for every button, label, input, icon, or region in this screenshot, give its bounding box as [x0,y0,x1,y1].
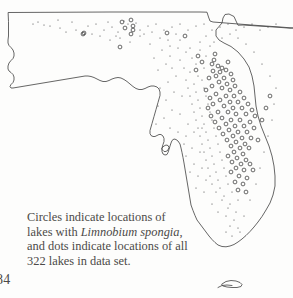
limnobium-lake-marker [209,114,213,118]
lake-dot-marker [221,37,222,38]
lake-dot-marker [95,23,96,24]
lake-dot-marker [201,79,202,80]
lake-dot-marker [219,26,220,27]
lake-dot-marker [175,75,176,76]
lake-dot-marker [135,22,136,23]
limnobium-lake-marker [248,120,252,124]
lake-dot-marker [215,171,216,172]
caption-line-3: and dots indicate locations of all [27,239,237,254]
lake-dot-marker [159,37,160,38]
limnobium-lake-marker [242,96,246,100]
species-name: Limnobium spongia [81,225,180,239]
lake-dot-marker [243,26,244,27]
lake-dot-marker [199,151,200,152]
lake-dot-marker [191,147,192,148]
lake-dot-marker [205,179,206,180]
lake-dot-marker [201,143,202,144]
limnobium-lake-marker [234,140,238,144]
limnobium-lake-marker [229,72,233,76]
limnobium-lake-marker [233,124,237,128]
lake-dot-marker [143,33,144,34]
lake-dot-marker [235,29,236,30]
limnobium-lake-marker [252,126,256,130]
lake-dot-marker [239,231,240,232]
limnobium-lake-marker [213,120,217,124]
limnobium-lake-marker [196,54,200,58]
limnobium-lake-marker [225,138,229,142]
lake-dot-marker [201,127,202,128]
lake-dot-marker [199,41,200,42]
limnobium-lake-marker [183,34,187,38]
limnobium-lake-marker [244,158,248,162]
lake-dot-marker [185,135,186,136]
lake-dot-marker [207,167,208,168]
lake-dot-marker [71,21,72,22]
limnobium-lake-marker [200,60,204,64]
limnobium-lake-marker [241,182,245,186]
lake-dot-marker [43,24,44,25]
limnobium-lake-marker [214,92,218,96]
lake-dot-marker [193,163,194,164]
lake-dot-marker [169,55,170,56]
lake-dot-marker [213,163,214,164]
lake-dot-marker [109,39,110,40]
lake-dot-marker [165,99,166,100]
caption-line-1: Circles indicate locations of [27,210,237,225]
limnobium-lake-marker [131,24,135,28]
limnobium-lake-marker [234,112,238,116]
limnobium-lake-marker [238,146,242,150]
lake-dot-marker [227,207,228,208]
lake-dot-marker [267,26,268,27]
lake-dot-marker [167,81,168,82]
lake-dot-marker [149,43,150,44]
limnobium-lake-marker [227,128,231,132]
limnobium-lake-marker [212,58,216,62]
lake-dot-marker [187,87,188,88]
limnobium-lake-marker [242,124,246,128]
limnobium-lake-marker [250,108,254,112]
lake-dot-marker [183,143,184,144]
lake-dot-marker [221,199,222,200]
limnobium-lake-marker [231,134,235,138]
lake-dot-marker [197,175,198,176]
limnobium-lake-marker [240,106,244,110]
limnobium-lake-marker [235,156,239,160]
lake-dot-marker [245,43,246,44]
limnobium-lake-marker [210,84,214,88]
lake-dot-marker [157,69,158,70]
limnobium-lake-marker [238,118,242,122]
lake-dot-marker [195,187,196,188]
limnobium-lake-marker [236,188,240,192]
lake-dot-marker [147,25,148,26]
lake-dot-marker [255,183,256,184]
lake-dot-marker [103,29,104,30]
limnobium-lake-marker [231,106,235,110]
lake-dot-marker [59,27,60,28]
lake-dot-marker [231,191,232,192]
limnobium-lake-marker [249,136,253,140]
lake-dot-marker [203,123,204,124]
lake-dot-marker [197,99,198,100]
limnobium-lake-marker [236,130,240,134]
lake-dot-marker [227,183,228,184]
limnobium-lake-marker [229,118,233,122]
limnobium-lake-marker [81,32,85,36]
limnobium-lake-marker [226,154,230,158]
lake-dot-marker [173,91,174,92]
lake-dot-marker [157,105,158,106]
limnobium-lake-marker [242,168,246,172]
lake-dot-marker [163,29,164,30]
limnobium-lake-marker [225,82,229,86]
lake-dot-marker [217,143,218,144]
limnobium-lake-marker [222,104,226,108]
lake-dot-marker [211,183,212,184]
lake-dot-marker [215,191,216,192]
lake-dot-marker [205,95,206,96]
limnobium-lake-marker [118,45,122,49]
limnobium-lake-marker [221,132,225,136]
limnobium-lake-marker [226,60,230,64]
lake-dot-marker [203,151,204,152]
lake-dot-marker [87,25,88,26]
lake-dot-marker [189,47,190,48]
lake-dot-marker [107,21,108,22]
